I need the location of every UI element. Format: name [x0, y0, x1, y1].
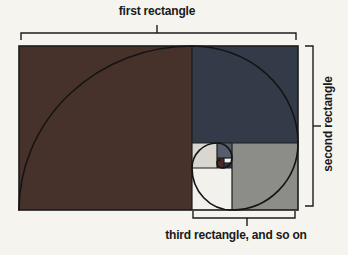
label-first-rectangle: first rectangle — [97, 4, 217, 18]
figure-canvas — [0, 0, 348, 255]
label-second-rectangle: second rectangle — [321, 74, 335, 174]
square-3-third-gray — [232, 143, 298, 210]
golden-ratio-diagram: first rectangle second rectangle third r… — [0, 0, 348, 255]
right-bracket — [305, 46, 313, 206]
bottom-bracket — [193, 211, 295, 218]
top-bracket — [21, 33, 296, 40]
square-2-second-navy — [192, 46, 298, 143]
label-third-rectangle: third rectangle, and so on — [156, 228, 316, 242]
square-1-first-maroon — [19, 46, 192, 210]
